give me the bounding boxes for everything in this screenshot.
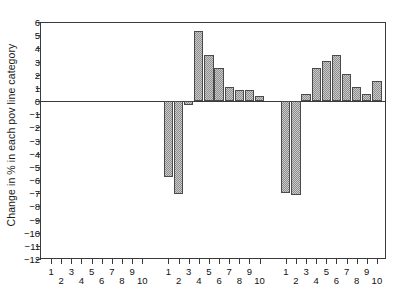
bar — [322, 61, 331, 101]
y-axis-tick-mark — [36, 233, 41, 234]
x-axis-tick-label: 1 — [166, 266, 171, 277]
zero-line — [40, 101, 386, 102]
bar — [281, 101, 290, 193]
bar — [235, 90, 244, 101]
bar — [184, 101, 193, 105]
x-axis-tick-mark — [229, 259, 230, 264]
y-axis-tick-labels: 6543210−1−2−3−4−5−6−7−8−9−10−11−12 — [20, 0, 40, 302]
x-axis-tick-label: 9 — [364, 266, 369, 277]
y-axis-tick-mark — [36, 259, 41, 260]
bar — [312, 68, 321, 101]
x-axis-tick-mark — [219, 259, 220, 264]
y-axis-tick-mark — [36, 154, 41, 155]
x-axis-tick-label: 2 — [176, 275, 181, 286]
bar — [204, 55, 213, 101]
bar — [291, 101, 300, 195]
x-axis-tick-mark — [209, 259, 210, 264]
x-axis-tick-label: 10 — [254, 275, 265, 286]
x-axis-tick-label: 6 — [216, 275, 221, 286]
bar — [245, 90, 254, 101]
x-axis-tick-mark — [168, 259, 169, 264]
x-axis-tick-label: 8 — [237, 275, 242, 286]
x-axis-tick-label: 4 — [79, 275, 84, 286]
y-axis-tick-mark — [36, 141, 41, 142]
bar-chart: Change in % in each pov line category 65… — [0, 0, 407, 302]
y-axis-tick-mark — [36, 167, 41, 168]
y-axis-label: Change in % in each pov line category — [5, 44, 17, 227]
bar — [194, 31, 203, 101]
x-axis-tick-label: 5 — [206, 266, 211, 277]
x-axis-tick-mark — [122, 259, 123, 264]
bar — [214, 68, 223, 101]
y-axis-tick-mark — [36, 193, 41, 194]
x-axis-tick-label: 10 — [372, 275, 383, 286]
x-axis-tick-mark — [306, 259, 307, 264]
x-axis-tick-mark — [61, 259, 62, 264]
x-axis-tick-label: 6 — [99, 275, 104, 286]
x-axis-tick-label: 8 — [119, 275, 124, 286]
x-axis-tick-mark — [316, 259, 317, 264]
x-axis-tick-label: 3 — [186, 266, 191, 277]
x-axis-tick-label: 2 — [59, 275, 64, 286]
x-axis-tick-label: 7 — [227, 266, 232, 277]
y-axis-tick-mark — [36, 35, 41, 36]
x-axis-tick-label: 8 — [354, 275, 359, 286]
x-axis-tick-mark — [51, 259, 52, 264]
bar — [164, 101, 173, 177]
y-axis-tick-mark — [36, 206, 41, 207]
x-axis-tick-label: 5 — [324, 266, 329, 277]
bar — [342, 74, 351, 101]
y-axis-tick-mark — [36, 180, 41, 181]
x-axis-tick-mark — [367, 259, 368, 264]
x-axis-tick-mark — [286, 259, 287, 264]
x-axis-tick-label: 1 — [283, 266, 288, 277]
x-axis-tick-label: 4 — [196, 275, 201, 286]
x-axis-tick-mark — [199, 259, 200, 264]
x-axis-tick-mark — [71, 259, 72, 264]
bar — [362, 94, 371, 101]
bar — [332, 55, 341, 101]
x-axis-tick-label: 7 — [344, 266, 349, 277]
x-axis-tick-label: 6 — [334, 275, 339, 286]
x-axis-tick-mark — [132, 259, 133, 264]
x-axis-tick-mark — [112, 259, 113, 264]
bar — [372, 81, 381, 101]
x-axis-tick-mark — [142, 259, 143, 264]
x-axis-tick-mark — [357, 259, 358, 264]
x-axis-tick-mark — [179, 259, 180, 264]
y-axis-label-container: Change in % in each pov line category — [2, 0, 20, 270]
x-axis-tick-mark — [102, 259, 103, 264]
x-axis-tick-mark — [189, 259, 190, 264]
x-axis-tick-mark — [326, 259, 327, 264]
x-axis-tick-mark — [92, 259, 93, 264]
bar — [352, 87, 361, 101]
x-axis-tick-label: 10 — [137, 275, 148, 286]
bar — [255, 96, 264, 101]
y-axis-tick-mark — [36, 246, 41, 247]
x-axis-tick-mark — [296, 259, 297, 264]
x-axis-tick-label: 9 — [247, 266, 252, 277]
y-axis-tick-mark — [36, 88, 41, 89]
x-axis-tick-mark — [239, 259, 240, 264]
y-axis-tick-mark — [36, 48, 41, 49]
bar — [174, 101, 183, 194]
x-axis-tick-mark — [81, 259, 82, 264]
x-axis-tick-mark — [336, 259, 337, 264]
bar — [225, 87, 234, 101]
x-axis-tick-label: 2 — [293, 275, 298, 286]
x-axis-tick-label: 3 — [303, 266, 308, 277]
y-axis-tick-mark — [36, 75, 41, 76]
x-axis-tick-mark — [260, 259, 261, 264]
x-axis-tick-label: 3 — [69, 266, 74, 277]
y-axis-tick-mark — [36, 220, 41, 221]
y-axis-tick-mark — [36, 62, 41, 63]
x-axis-tick-label: 1 — [48, 266, 53, 277]
bar — [301, 94, 310, 101]
x-axis-tick-mark — [249, 259, 250, 264]
y-axis-tick-mark — [36, 22, 41, 23]
x-axis-tick-mark — [377, 259, 378, 264]
x-axis-tick-label: 9 — [129, 266, 134, 277]
x-axis-tick-mark — [347, 259, 348, 264]
y-axis-tick-mark — [36, 127, 41, 128]
x-axis-tick-label: 5 — [89, 266, 94, 277]
